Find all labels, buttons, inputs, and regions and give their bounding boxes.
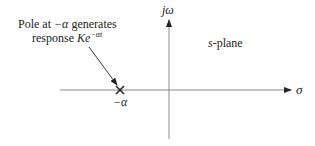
- alpha-symbol: −α: [54, 17, 68, 31]
- pole-label: −α: [113, 96, 127, 109]
- annotation-text: response: [32, 31, 77, 45]
- imaginary-axis-label: jω: [162, 4, 174, 17]
- pointer-arrow: [89, 47, 117, 85]
- annotation-text: generates: [68, 17, 116, 31]
- annotation-text: Pole at: [18, 17, 54, 31]
- k-symbol: K: [77, 31, 85, 45]
- annotation-line2: response Ke−αt: [32, 32, 102, 45]
- s-plane-label: s-plane: [208, 37, 243, 50]
- exponent: −αt: [90, 30, 102, 39]
- real-axis-label: σ: [296, 83, 302, 96]
- plane-text: -plane: [213, 36, 243, 50]
